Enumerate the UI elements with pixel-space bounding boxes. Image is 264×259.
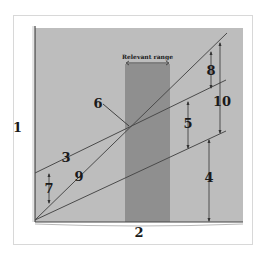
label-gap-5: 5 [183,116,192,131]
label-total-revenue-line: 9 [74,169,83,184]
label-profit: 8 [206,63,215,78]
relevant-range-label: Relevant range [122,53,173,61]
label-fixed-cost: 7 [44,181,53,196]
label-variable-cost: 4 [204,170,213,185]
label-x-axis: 2 [134,225,143,240]
label-y-axis: 1 [13,120,22,135]
diagram-canvas: Relevant range 1 2 3 4 5 6 [0,0,264,259]
relevant-range-band [125,64,170,222]
label-total-cost-line: 3 [61,150,70,165]
label-total-revenue: 10 [213,94,231,109]
label-break-even-point: 6 [93,96,102,111]
break-even-diagram: Relevant range 1 2 3 4 5 6 [0,0,264,259]
